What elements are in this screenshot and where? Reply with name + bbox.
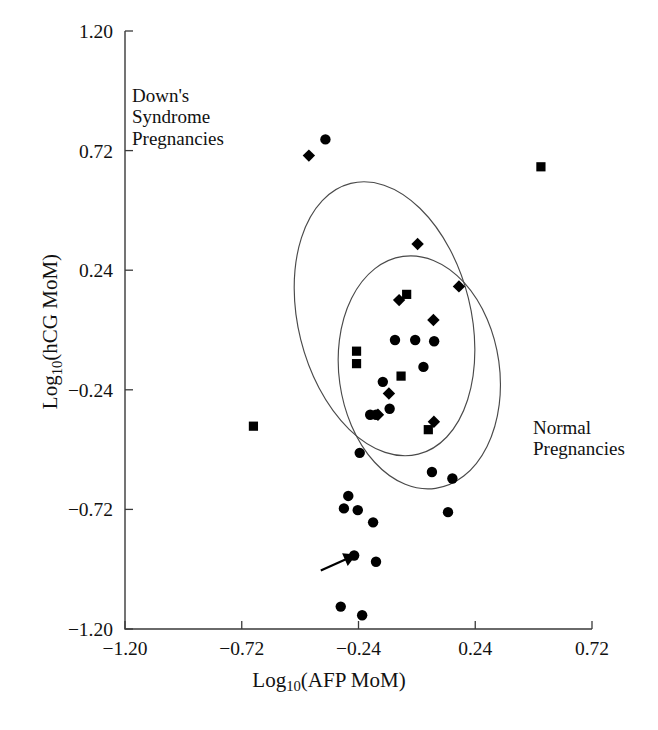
x-axis-label-subscript: 10 [286,678,301,694]
x-axis-label: Log10(AFP MoM) [0,668,658,695]
data-point-square [424,425,433,434]
arrow-head [344,555,354,564]
data-point-diamond [303,149,315,161]
x-tick-label: 0.72 [575,638,609,659]
data-point-circle [378,377,388,387]
y-axis-label: Log10(hCG MoM) [38,172,65,492]
data-point-circle [427,467,437,477]
y-axis-label-prefix: Log [38,375,62,409]
y-tick-label: 0.24 [79,260,113,281]
data-point-square [402,290,411,299]
data-point-diamond [411,238,423,250]
data-point-circle [443,507,453,517]
data-point-circle [410,335,420,345]
data-point-square [249,422,258,431]
x-tick-label: −0.72 [219,638,264,659]
x-tick-label: 0.24 [458,638,492,659]
data-point-circle [353,505,363,515]
x-axis-label-prefix: Log [252,668,286,692]
arrow-annotation [321,555,354,571]
plot-canvas: −1.20−0.72−0.240.240.721.200.720.24−0.24… [0,0,658,730]
data-point-circle [384,404,394,414]
y-tick-label: −1.20 [68,619,113,640]
data-point-diamond [383,387,395,399]
normal-pregnancies-group-label: Normal Pregnancies [533,417,625,460]
data-point-square [396,371,405,380]
data-point-circle [418,362,428,372]
data-point-circle [447,473,457,483]
x-tick-label: −0.24 [336,638,381,659]
data-point-square [352,359,361,368]
data-point-circle [390,335,400,345]
data-point-square [536,162,545,171]
data-point-circle [355,448,365,458]
data-point-square [352,347,361,356]
data-point-circle [368,517,378,527]
x-tick-label: −1.20 [102,638,147,659]
downs-syndrome-ellipse [267,163,502,476]
x-axis-label-suffix: (AFP MoM) [301,668,406,692]
ellipse-layer [267,163,515,500]
y-tick-label: −0.24 [68,380,113,401]
data-point-diamond [427,314,439,326]
data-point-circle [343,491,353,501]
y-tick-label: 0.72 [79,141,113,162]
y-axis-label-subscript: 10 [49,361,65,376]
arrow-shaft [321,559,346,570]
y-tick-label: 1.20 [79,21,113,42]
marker-layer [249,134,546,620]
y-axis-label-suffix: (hCG MoM) [38,254,62,361]
downs-syndrome-group-label: Down's Syndrome Pregnancies [132,85,224,149]
data-point-circle [429,336,439,346]
y-tick-label: −0.72 [68,499,113,520]
data-point-circle [336,601,346,611]
data-point-circle [371,557,381,567]
data-point-circle [357,610,367,620]
normal-pregnancies-ellipse [324,245,516,499]
data-point-circle [320,134,330,144]
scatter-plot-figure: −1.20−0.72−0.240.240.721.200.720.24−0.24… [0,0,658,730]
data-point-circle [339,503,349,513]
